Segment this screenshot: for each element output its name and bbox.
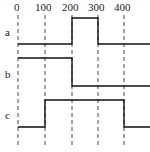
timing-diagram: 0 100 200 300 400 a b c [0,0,150,152]
tick-label-200: 200 [62,1,79,13]
tick-label-100: 100 [35,1,52,13]
signal-label-b: b [5,68,11,80]
waveform-c [18,100,150,127]
signal-label-c: c [5,109,10,121]
waveform-b [18,58,150,86]
tick-label-400: 400 [114,1,131,13]
tick-label-300: 300 [88,1,105,13]
waveform-a [18,18,150,44]
signal-label-a: a [5,26,10,38]
tick-label-0: 0 [14,1,20,13]
